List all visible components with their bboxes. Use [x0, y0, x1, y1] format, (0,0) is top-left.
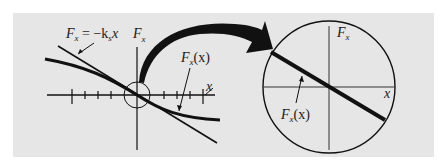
left-x-axis-label: x — [205, 79, 213, 94]
linear-label-F: F — [65, 26, 75, 41]
hooke-law-magnification-diagram: Fx = −ksx Fx Fx(x) x Fx x Fx(x) — [0, 0, 446, 163]
right-y-axis-label: F — [336, 25, 346, 40]
right-curve-label: F — [280, 107, 290, 122]
right-plot: Fx x Fx(x) — [263, 21, 395, 153]
left-y-axis-label: F — [132, 26, 142, 41]
svg-text:Fx(x): Fx(x) — [280, 107, 310, 124]
right-x-axis-label: x — [383, 86, 391, 101]
left-curve-label: F — [180, 50, 190, 65]
svg-text:Fx(x): Fx(x) — [180, 50, 210, 67]
